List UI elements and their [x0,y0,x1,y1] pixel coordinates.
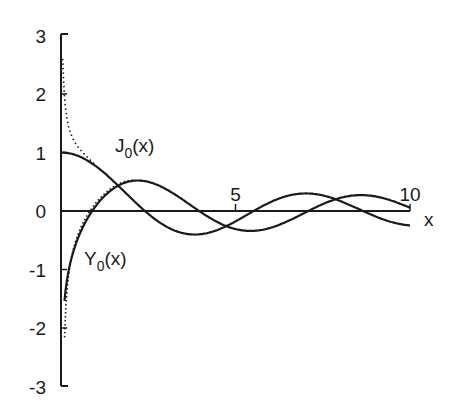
y0-label: Y0(x) [84,248,127,274]
bessel-chart: 3210-1-2-3 510 x J0(x) Y0(x) [0,0,452,404]
x-axis-label: x [424,209,434,230]
x-tick-label: 5 [230,184,241,205]
y-tick-label: 3 [35,26,46,47]
y-tick-label: 2 [35,84,46,105]
y-tick-label: -2 [29,318,46,339]
j0-asymptotic-dotted [63,59,96,165]
y-tick-label: -1 [29,260,46,281]
y-tick-label: 1 [35,143,46,164]
y-tick-label: 0 [35,201,46,222]
j0-label: J0(x) [115,135,154,161]
y-tick-label: -3 [29,377,46,398]
x-tick-label: 10 [399,184,420,205]
